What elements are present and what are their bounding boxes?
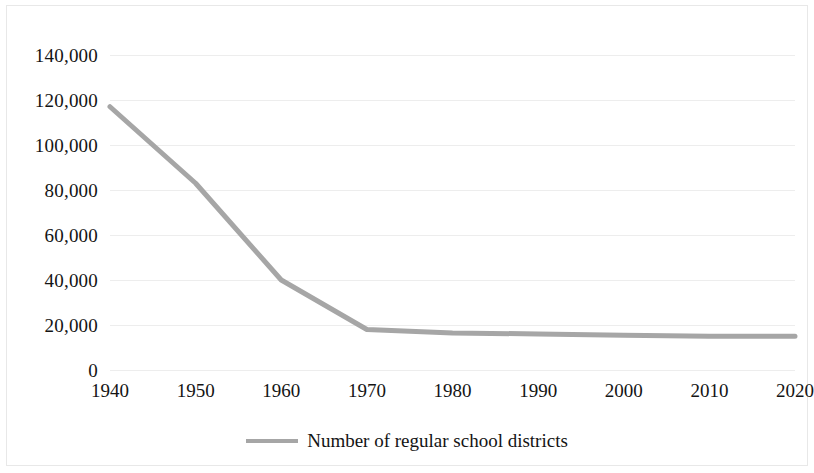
x-axis-tick-label: 2000 <box>589 380 659 402</box>
x-axis-tick-label: 1970 <box>332 380 402 402</box>
y-axis-tick-label: 140,000 <box>0 46 98 65</box>
legend-label: Number of regular school districts <box>307 430 568 452</box>
x-axis-tick-label: 1960 <box>246 380 316 402</box>
y-axis-tick-label: 100,000 <box>0 136 98 155</box>
x-axis-tick-label: 2010 <box>674 380 744 402</box>
plot-area <box>110 55 795 370</box>
y-axis-tick-label: 0 <box>0 361 98 380</box>
page-border-bottom <box>6 465 808 466</box>
x-axis-tick-label: 1990 <box>503 380 573 402</box>
y-axis: 140,000120,000100,00080,00060,00040,0002… <box>0 55 98 370</box>
y-axis-tick-label: 60,000 <box>0 226 98 245</box>
x-axis-tick-label: 1950 <box>161 380 231 402</box>
x-axis-tick-label: 1980 <box>418 380 488 402</box>
series-line-number-of-regular-school-districts <box>110 55 795 370</box>
y-axis-tick-label: 20,000 <box>0 316 98 335</box>
gridline <box>110 370 795 371</box>
line-swatch <box>246 439 298 443</box>
y-axis-tick-label: 40,000 <box>0 271 98 290</box>
y-axis-tick-label: 80,000 <box>0 181 98 200</box>
chart-legend: Number of regular school districts <box>0 430 814 452</box>
x-axis: 194019501960197019801990200020102020 <box>110 380 795 406</box>
chart-figure: 140,000120,000100,00080,00060,00040,0002… <box>0 0 814 473</box>
x-axis-tick-label: 2020 <box>760 380 814 402</box>
y-axis-tick-label: 120,000 <box>0 91 98 110</box>
page-border-top <box>6 5 808 6</box>
x-axis-tick-label: 1940 <box>75 380 145 402</box>
